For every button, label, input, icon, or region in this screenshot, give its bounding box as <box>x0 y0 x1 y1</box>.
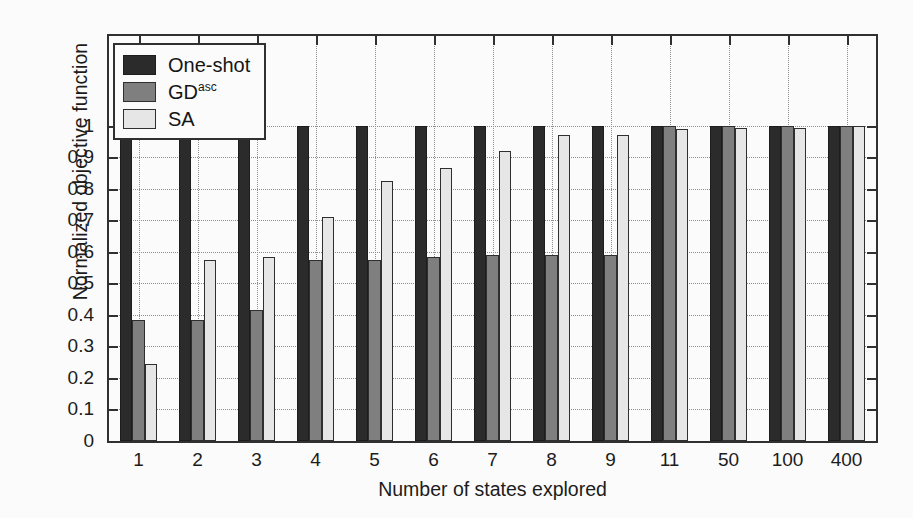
bar-group <box>533 36 571 441</box>
x-axis-tick-label: 9 <box>605 449 616 471</box>
bar <box>781 126 793 441</box>
y-axis-tick-label: 0.7 <box>30 209 94 231</box>
bar <box>592 126 604 441</box>
bar-group <box>710 36 748 441</box>
bar-group <box>297 36 335 441</box>
bar <box>263 257 275 441</box>
bar-group <box>651 36 689 441</box>
bar <box>297 126 309 441</box>
bar <box>840 126 852 441</box>
legend-item: GDasc <box>123 78 250 105</box>
chart-legend: One-shotGDascSA <box>113 43 266 140</box>
bar <box>735 128 747 442</box>
y-axis-tick-labels: 00.10.20.30.40.50.60.70.80.91 <box>30 0 94 518</box>
y-axis-tick-label: 1 <box>30 115 94 137</box>
bar-group <box>828 36 866 441</box>
y-axis-tick-mark <box>109 189 118 191</box>
bar <box>663 126 675 441</box>
legend-label: GDasc <box>168 82 217 102</box>
bar-group <box>415 36 453 441</box>
legend-label: One-shot <box>168 55 250 75</box>
bar <box>617 135 629 441</box>
y-axis-tick-mark <box>867 220 876 222</box>
bar <box>853 126 865 441</box>
legend-swatch-oneshot <box>123 55 156 75</box>
bar <box>710 126 722 441</box>
y-axis-tick-mark <box>867 283 876 285</box>
x-axis-title: Number of states explored <box>107 478 878 501</box>
y-axis-tick-mark <box>867 441 876 443</box>
y-axis-tick-mark <box>867 346 876 348</box>
bar <box>440 168 452 441</box>
bar <box>545 255 557 441</box>
x-axis-tick-label: 8 <box>546 449 557 471</box>
bar <box>238 126 250 441</box>
bar <box>604 255 616 441</box>
y-axis-tick-mark <box>867 189 876 191</box>
legend-item: One-shot <box>123 51 250 78</box>
bar <box>179 126 191 441</box>
bar <box>120 126 132 441</box>
bar <box>356 126 368 441</box>
bar <box>769 126 781 441</box>
bar <box>250 310 262 441</box>
bar <box>794 128 806 442</box>
y-axis-tick-mark <box>109 157 118 159</box>
y-axis-tick-mark <box>867 252 876 254</box>
bar <box>474 126 486 441</box>
y-axis-tick-label: 0.8 <box>30 178 94 200</box>
x-axis-tick-label: 6 <box>428 449 439 471</box>
y-axis-tick-label: 0.2 <box>30 367 94 389</box>
x-axis-tick-label: 100 <box>772 449 804 471</box>
bar <box>132 320 144 441</box>
bar <box>322 217 334 441</box>
y-axis-tick-mark <box>867 315 876 317</box>
bar-group <box>474 36 512 441</box>
y-axis-tick-mark <box>109 346 118 348</box>
bar <box>722 126 734 441</box>
y-axis-tick-label: 0.3 <box>30 335 94 357</box>
y-axis-tick-label: 0.5 <box>30 272 94 294</box>
y-axis-tick-mark <box>109 441 118 443</box>
bar <box>558 135 570 441</box>
x-axis-tick-labels: 1234567891150100400 <box>107 449 878 479</box>
bar-group <box>769 36 807 441</box>
bar <box>381 181 393 441</box>
y-axis-tick-mark <box>109 220 118 222</box>
y-axis-tick-label: 0.9 <box>30 146 94 168</box>
bar <box>204 260 216 441</box>
chart-figure: Normalized objective function 00.10.20.3… <box>0 0 913 518</box>
y-axis-tick-mark <box>867 378 876 380</box>
bar <box>368 260 380 441</box>
x-axis-tick-label: 50 <box>718 449 739 471</box>
x-axis-tick-label: 400 <box>831 449 863 471</box>
bar <box>145 364 157 441</box>
y-axis-tick-mark <box>109 409 118 411</box>
y-axis-tick-label: 0.4 <box>30 304 94 326</box>
y-axis-tick-label: 0.6 <box>30 241 94 263</box>
legend-swatch-gd <box>123 82 156 102</box>
x-axis-tick-label: 11 <box>660 449 680 471</box>
y-axis-tick-mark <box>109 252 118 254</box>
y-axis-tick-mark <box>109 378 118 380</box>
bar <box>651 126 663 441</box>
bar <box>486 255 498 441</box>
legend-item: SA <box>123 105 250 132</box>
bar <box>427 257 439 441</box>
x-axis-tick-label: 3 <box>251 449 262 471</box>
y-axis-tick-mark <box>109 283 118 285</box>
y-axis-tick-label: 0.1 <box>30 398 94 420</box>
y-axis-tick-mark <box>867 409 876 411</box>
x-axis-tick-label: 4 <box>310 449 321 471</box>
x-axis-tick-label: 5 <box>369 449 380 471</box>
bar-group <box>592 36 630 441</box>
bar <box>828 126 840 441</box>
legend-swatch-sa <box>123 109 156 129</box>
bar <box>676 129 688 441</box>
bar <box>415 126 427 441</box>
y-axis-tick-mark <box>109 315 118 317</box>
y-axis-tick-mark <box>867 157 876 159</box>
x-axis-tick-label: 2 <box>192 449 203 471</box>
bar <box>309 260 321 441</box>
y-axis-tick-mark <box>867 126 876 128</box>
